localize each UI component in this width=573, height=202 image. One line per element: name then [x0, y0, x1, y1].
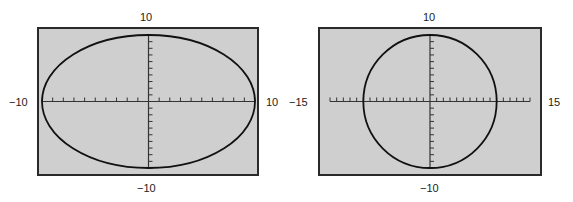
left-ymin-label: −10	[137, 182, 156, 194]
left-graph	[38, 28, 258, 175]
right-graph	[319, 28, 541, 175]
right-ymin-label: −10	[420, 182, 439, 194]
graphs-canvas	[0, 0, 573, 202]
right-ymax-label: 10	[423, 11, 435, 23]
left-xmin-label: −10	[9, 96, 28, 108]
right-xmax-label: 15	[548, 96, 560, 108]
left-xmax-label: 10	[266, 96, 278, 108]
right-xmin-label: −15	[289, 96, 308, 108]
left-ymax-label: 10	[140, 11, 152, 23]
